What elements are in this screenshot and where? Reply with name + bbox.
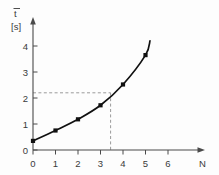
data-point <box>53 128 57 132</box>
plot-area: 0 1 2 3 4 0 1 2 3 4 5 6 t [s] N <box>0 0 219 175</box>
data-point <box>31 139 35 143</box>
x-tick-label-6: 6 <box>165 158 170 169</box>
y-axis-title: t <box>14 8 17 19</box>
x-tick-label-1: 1 <box>53 158 58 169</box>
x-tick-label-3: 3 <box>98 158 103 169</box>
x-tick-label-2: 2 <box>75 158 80 169</box>
y-axis-unit-label: [s] <box>11 21 21 32</box>
data-point <box>76 117 80 121</box>
y-tick-label-2: 2 <box>23 93 28 104</box>
y-axis-ticks <box>33 46 38 150</box>
data-curve <box>33 41 150 141</box>
x-tick-label-5: 5 <box>143 158 148 169</box>
y-tick-label-1: 1 <box>23 119 28 130</box>
data-point <box>98 103 102 107</box>
y-axis-arrow-icon <box>30 17 36 25</box>
x-tick-label-0: 0 <box>30 158 35 169</box>
chart-container: 0 1 2 3 4 0 1 2 3 4 5 6 t [s] N <box>0 0 219 175</box>
data-point <box>143 53 147 57</box>
x-axis-title: N <box>199 158 206 169</box>
data-point <box>121 82 125 86</box>
y-tick-label-0: 0 <box>23 145 28 156</box>
guide-lines <box>33 93 111 150</box>
x-tick-label-4: 4 <box>120 158 125 169</box>
y-tick-label-4: 4 <box>23 41 28 52</box>
x-axis-ticks <box>33 150 168 155</box>
y-tick-label-3: 3 <box>23 67 28 78</box>
x-axis-arrow-icon <box>198 147 206 153</box>
data-markers <box>31 53 148 143</box>
